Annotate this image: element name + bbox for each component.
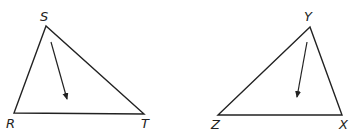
- vertex-label-r: R: [6, 116, 15, 131]
- rotation-arrow-icon: [51, 42, 67, 99]
- triangle-yzx-outline: [218, 27, 342, 115]
- triangle-srt-outline: [14, 26, 144, 114]
- diagram-canvas: S R T Y Z X: [0, 0, 351, 138]
- vertex-label-s: S: [40, 9, 48, 24]
- vertex-label-x: X: [338, 117, 349, 132]
- vertex-label-y: Y: [304, 9, 313, 24]
- triangle-srt: S R T: [6, 9, 150, 131]
- rotation-arrow-icon: [297, 42, 307, 97]
- vertex-label-z: Z: [210, 117, 221, 132]
- triangle-yzx: Y Z X: [210, 9, 349, 132]
- vertex-label-t: T: [141, 116, 150, 131]
